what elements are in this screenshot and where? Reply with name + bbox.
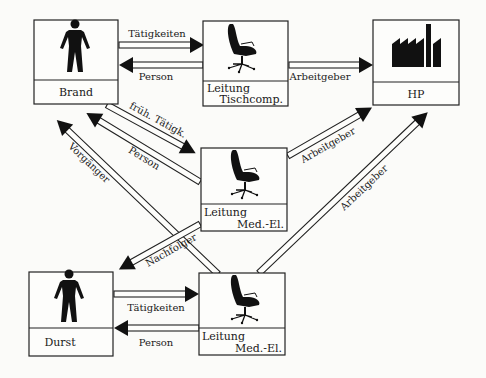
node-durst[interactable]: Durst xyxy=(29,270,113,357)
edge-label-taetigkeiten-bottom: Tätigkeiten xyxy=(127,302,185,313)
edge-label-person-bottom: Person xyxy=(139,337,174,348)
node-hp[interactable]: HP xyxy=(373,20,459,105)
node-leitung-med-el-bottom[interactable]: Leitung Med.-El. xyxy=(199,273,285,355)
node-leitung-tischcomp[interactable]: Leitung Tischcomp. xyxy=(203,21,288,106)
edge-label-taetigkeiten: Tätigkeiten xyxy=(128,28,186,39)
edge-durst-to-bottom: Tätigkeiten xyxy=(114,286,199,313)
node-label-durst: Durst xyxy=(44,336,76,349)
edge-brand-to-tisch: Tätigkeiten xyxy=(119,28,204,53)
edge-label-person: Person xyxy=(139,71,174,82)
node-leitung-med-el-middle[interactable]: Leitung Med.-El. xyxy=(201,148,287,231)
diagram-canvas: Tätigkeiten Person Arbeitgeber früh. Tät… xyxy=(0,0,486,378)
node-label-hp: HP xyxy=(408,88,426,101)
edge-bottom-to-durst: Person xyxy=(114,320,199,348)
node-label-brand: Brand xyxy=(59,86,93,99)
node-brand[interactable]: Brand xyxy=(34,20,118,105)
node-label-line2: Med.-El. xyxy=(235,342,282,355)
edge-label-arbeitgeber: Arbeitgeber xyxy=(289,71,351,82)
node-label-line2: Tischcomp. xyxy=(220,93,284,106)
node-label-line2: Med.-El. xyxy=(237,218,284,231)
edge-tisch-to-brand: Person xyxy=(119,57,203,82)
edge-mid-to-hp: Arbeitgeber xyxy=(284,101,380,170)
edge-tisch-to-hp: Arbeitgeber xyxy=(289,57,373,82)
